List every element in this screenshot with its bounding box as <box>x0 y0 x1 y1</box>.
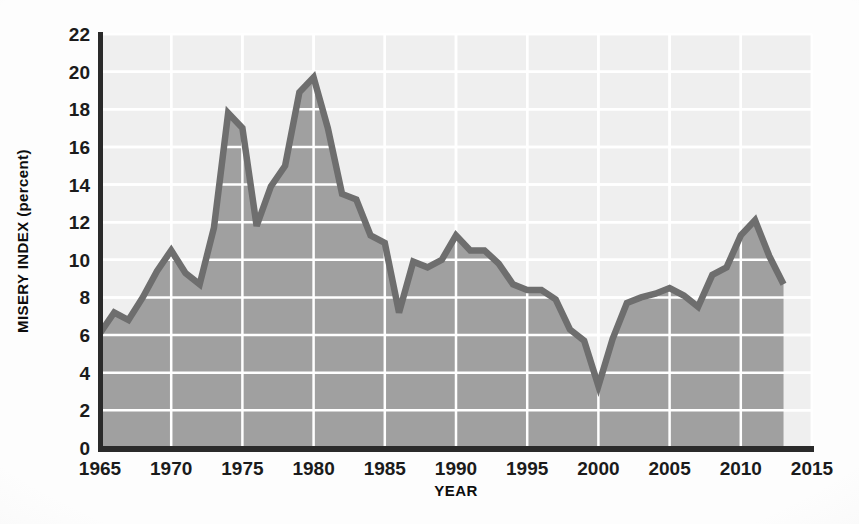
x-tick-label: 2000 <box>577 458 619 479</box>
x-tick-label: 1965 <box>79 458 122 479</box>
y-tick-label: 12 <box>69 212 90 233</box>
chart-canvas: 0246810121416182022 19651970197519801985… <box>0 0 859 524</box>
x-tick-label: 2010 <box>720 458 762 479</box>
x-tick-label: 1995 <box>506 458 549 479</box>
x-tick-label: 2005 <box>648 458 691 479</box>
y-tick-label: 8 <box>79 287 90 308</box>
x-tick-label: 1990 <box>435 458 477 479</box>
x-axis-tick-labels: 1965197019751980198519901995200020052010… <box>79 458 834 479</box>
x-tick-label: 1975 <box>221 458 264 479</box>
y-tick-label: 20 <box>69 62 90 83</box>
x-tick-label: 2015 <box>791 458 834 479</box>
y-axis-tick-labels: 0246810121416182022 <box>69 24 91 459</box>
x-tick-label: 1980 <box>292 458 334 479</box>
y-tick-label: 18 <box>69 99 90 120</box>
y-tick-label: 0 <box>79 438 90 459</box>
y-tick-label: 14 <box>69 175 91 196</box>
x-axis-title: YEAR <box>434 482 477 499</box>
y-tick-label: 16 <box>69 137 90 158</box>
y-axis-title: MISERY INDEX (percent) <box>14 149 31 333</box>
x-axis-line <box>98 446 814 452</box>
y-tick-label: 4 <box>79 363 90 384</box>
y-tick-label: 2 <box>79 400 90 421</box>
y-axis-line <box>98 32 103 450</box>
y-tick-label: 22 <box>69 24 90 45</box>
x-tick-label: 1970 <box>150 458 192 479</box>
misery-index-chart-figure: 0246810121416182022 19651970197519801985… <box>0 0 859 524</box>
y-tick-label: 10 <box>69 250 90 271</box>
x-tick-label: 1985 <box>364 458 407 479</box>
y-tick-label: 6 <box>79 325 90 346</box>
